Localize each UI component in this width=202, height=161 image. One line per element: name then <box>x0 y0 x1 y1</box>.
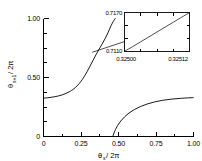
curve-upper-branch <box>44 19 116 99</box>
y-axis-title-symbol: θ <box>6 84 15 88</box>
inset-y-tick-label-bottom: 0.7110 <box>106 48 123 54</box>
inset-x-tick-label-left: 0.32500 <box>116 56 137 62</box>
x-axis-title: θ s / 2π <box>98 151 120 161</box>
x-tick-label-100: 1.00 <box>187 140 200 147</box>
figure-container: 1.00 0.50 0 0 0.25 0.50 0.75 1.00 θ s / … <box>0 0 202 161</box>
y-axis-title-tail: / 2π <box>6 60 15 74</box>
inset-x-tick-label-right: 0.32512 <box>168 56 189 62</box>
x-tick-label-075: 0.75 <box>150 140 163 147</box>
y-axis-title: θ s+1 / 2π <box>6 60 17 88</box>
x-major-ticks <box>44 132 194 137</box>
y-tick-label-0: 0 <box>36 133 40 140</box>
x-tick-label-025: 0.25 <box>75 140 88 147</box>
chart-canvas: 1.00 0.50 0 0 0.25 0.50 0.75 1.00 θ s / … <box>0 0 202 161</box>
y-major-ticks <box>44 19 49 137</box>
y-axis-title-subscript: s+1 <box>11 75 17 83</box>
x-axis-title-symbol: θ <box>98 151 102 160</box>
inset-plot: 0.7170 0.7110 0.32500 0.32512 <box>105 10 189 62</box>
y-tick-label-050: 0.50 <box>27 74 40 81</box>
x-axis-title-tail: / 2π <box>106 151 120 160</box>
y-tick-label-100: 1.00 <box>27 15 40 22</box>
x-tick-label-050: 0.50 <box>112 140 125 147</box>
curve-lower-branch <box>113 98 194 137</box>
inset-y-tick-label-top: 0.7170 <box>105 10 123 16</box>
x-tick-label-0: 0 <box>42 140 46 147</box>
